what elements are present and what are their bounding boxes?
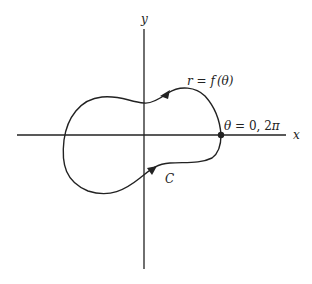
y-axis-label: y [140,12,148,26]
start-values: = 0, 2 [231,119,272,133]
curve-name-label: C [165,172,174,186]
start-pi: π [271,119,281,133]
curve-c [63,88,221,194]
equation-equals: = [193,74,211,88]
equation-label: r = f(θ) [187,74,234,88]
polar-curve-diagram: y x r = f(θ) θ = 0, 2π C [0,0,312,284]
equation-arg: (θ) [217,74,234,88]
x-axis-label: x [293,128,300,142]
start-point-label: θ = 0, 2π [224,119,281,133]
